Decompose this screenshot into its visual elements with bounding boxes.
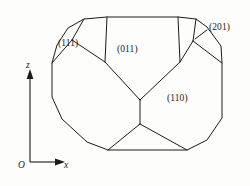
origin-label: O	[18, 160, 25, 170]
crystal-diagram-figure: (111) (011) (201) (110) z x O	[0, 0, 250, 186]
edge-bottom-left	[108, 124, 140, 150]
face-label-201: (201)	[209, 22, 230, 32]
face-label-110: (110)	[167, 93, 188, 103]
face-label-011: (011)	[117, 44, 138, 54]
x-axis-label: x	[64, 160, 68, 170]
reference-axes	[27, 69, 65, 165]
edge-top-left-vertical	[105, 17, 107, 62]
internal-edges	[52, 17, 222, 150]
edge-201-inner	[180, 41, 193, 62]
z-axis-label: z	[26, 60, 30, 70]
edge-201-upper	[193, 19, 196, 41]
edge-011-left-down	[105, 62, 140, 100]
edge-bottom-right	[140, 124, 187, 150]
crystal-outline	[52, 17, 222, 150]
face-label-111: (111)	[58, 38, 78, 48]
z-axis-arrowhead	[27, 69, 34, 79]
edge-201-lower	[193, 41, 222, 63]
edge-top-right-vertical	[178, 17, 180, 62]
leader-line-201	[195, 30, 207, 39]
